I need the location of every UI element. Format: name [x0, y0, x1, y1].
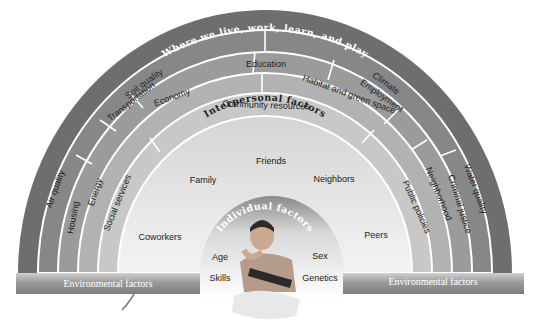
banner-right: Environmental factors [343, 273, 524, 294]
label-skills: Skills [209, 273, 231, 283]
decorative-stroke [122, 294, 134, 310]
label-education: Education [246, 59, 286, 69]
label-family: Family [190, 175, 217, 185]
label-peers: Peers [364, 230, 388, 240]
label-genetics: Genetics [302, 273, 338, 283]
label-sex: Sex [312, 251, 328, 261]
label-age: Age [212, 252, 228, 262]
label-neighbors: Neighbors [313, 174, 355, 184]
banner-right-label: Environmental factors [388, 276, 477, 287]
banner-left: Environmental factors [16, 273, 200, 294]
social-ecological-model-diagram: Where we live, work, learn, and play Soi… [0, 0, 535, 331]
banner-left-label: Environmental factors [63, 278, 152, 289]
label-friends: Friends [256, 156, 287, 166]
label-coworkers: Coworkers [138, 232, 182, 242]
